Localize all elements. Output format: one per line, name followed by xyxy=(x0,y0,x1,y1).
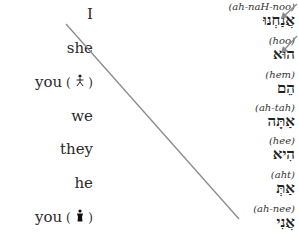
arrow-icon xyxy=(281,4,297,19)
match-line-i-to-ani xyxy=(66,24,239,219)
arrow-icon xyxy=(281,36,297,53)
connector-overlay xyxy=(0,0,299,247)
